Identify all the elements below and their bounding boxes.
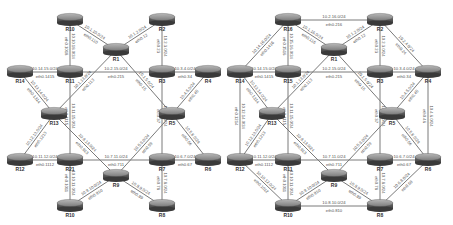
router-name: R13 [267, 120, 276, 126]
router-node[interactable]: R7 [149, 153, 175, 172]
link: 10.5.9.0/24eth0.59 [334, 114, 392, 176]
link-interface-label: eth0.1214 [234, 107, 239, 126]
router-node[interactable]: R8 [149, 199, 175, 218]
link-network-label: 10.2.15.0/24 [322, 66, 346, 71]
link-interface-label: eth0.23 [374, 39, 379, 54]
router-node[interactable]: R7 [367, 153, 393, 172]
router-name: R2 [377, 26, 384, 32]
link-interface-label: eth0.810 [326, 208, 343, 213]
router-name: R11 [284, 166, 293, 172]
link-interface-label: eth0.1112 [255, 162, 274, 167]
router-icon [103, 169, 129, 182]
router-name: R11 [66, 78, 75, 84]
link-network-label: 10.7.11.0/24 [323, 154, 347, 159]
link: 10.12.14.0/24eth0.1214 [234, 72, 247, 160]
link-network-label: 10.3.4.0/24 [394, 66, 416, 71]
link: 10.4.6.0/24eth0.46 [422, 72, 435, 160]
router-node[interactable]: R10 [57, 13, 83, 32]
link-interface-label: eth0.67 [178, 162, 193, 167]
router-icon [57, 65, 83, 78]
link-interface-label: eth0.1516 [282, 37, 287, 56]
router-icon [195, 153, 221, 166]
router-node[interactable]: R5 [159, 107, 185, 126]
router-name: R5 [169, 120, 176, 126]
link-interface-label: eth0.23 [156, 39, 161, 54]
router-name: R1 [113, 56, 120, 62]
link-interface-label: eth0.46 [422, 109, 427, 124]
router-node[interactable]: R2 [149, 13, 175, 32]
link: 10.8.10.0/24eth0.810 [288, 200, 380, 213]
router-name: R10 [65, 212, 74, 218]
link: 10.1.5.0/24eth0.15 [334, 50, 392, 114]
link-network-label: 10.2.16.0/24 [322, 14, 346, 19]
topology-panel-right: 10.2.16.0/24eth0.21610.1.16.0/24eth0.116… [227, 13, 441, 218]
router-name: R16 [283, 26, 292, 32]
link-network-label: 10.10.11.0/24 [289, 170, 294, 196]
router-node[interactable]: R9 [103, 169, 129, 188]
link-interface-label: eth0.67 [397, 162, 412, 167]
router-icon [259, 107, 285, 120]
link: 10.7.11.0/24eth0.711 [288, 154, 380, 167]
router-icon [275, 13, 301, 26]
link-network-label: 10.15.16.0/24 [289, 33, 294, 59]
router-node[interactable]: R6 [195, 153, 221, 172]
link-network-label: 10.14.15.0/24 [251, 66, 277, 71]
link-interface-label: eth0.1011 [64, 174, 69, 193]
router-node[interactable]: R4 [195, 65, 221, 84]
router-icon [275, 153, 301, 166]
router-icon [321, 43, 347, 56]
link-interface-label: eth0.78 [374, 176, 379, 191]
router-icon [321, 169, 347, 182]
router-node[interactable]: R3 [149, 65, 175, 84]
link-interface-label: eth0.34 [397, 74, 412, 79]
router-icon [7, 65, 33, 78]
router-name: R9 [113, 182, 120, 188]
link-interface-label: eth0.1415 [36, 74, 55, 79]
router-icon [227, 153, 253, 166]
router-name: R5 [389, 120, 396, 126]
link-network-label: 10.7.8.0/24 [163, 173, 168, 195]
link-network-label: 10.7.8.0/24 [381, 173, 386, 195]
router-node[interactable]: R12 [7, 153, 33, 172]
link-network-label: 10.7.11.0/24 [105, 154, 129, 159]
router-node[interactable]: R9 [321, 169, 347, 188]
router-name: R7 [159, 166, 166, 172]
router-icon [367, 199, 393, 212]
router-icon [149, 13, 175, 26]
router-icon [103, 43, 129, 56]
router-node[interactable]: R8 [367, 199, 393, 218]
router-icon [159, 107, 185, 120]
router-name: R14 [15, 78, 24, 84]
link-interface-label: eth0.215 [108, 74, 125, 79]
router-node[interactable]: R14 [7, 65, 33, 84]
link: 10.1.13.0/24eth0.113 [272, 50, 334, 114]
router-node[interactable]: R10 [275, 199, 301, 218]
router-node[interactable]: R10 [57, 199, 83, 218]
link-interface-label: eth0.34 [178, 74, 193, 79]
router-node[interactable]: R11 [275, 153, 301, 172]
router-icon [41, 107, 67, 120]
router-icon [275, 65, 301, 78]
link: 10.1.13.0/24eth0.113 [54, 50, 116, 114]
link: 10.10.12.0/24eth0.1012 [240, 160, 288, 206]
router-name: R6 [425, 166, 432, 172]
router-name: R12 [15, 166, 24, 172]
router-name: R1 [331, 56, 338, 62]
link-network-label: 10.11.15.0/24 [71, 103, 76, 129]
router-icon [415, 65, 441, 78]
router-icon [57, 153, 83, 166]
router-name: R8 [377, 212, 384, 218]
router-name: R10 [65, 26, 74, 32]
link-network-label: 10.6.7.0/24 [175, 154, 197, 159]
router-node[interactable]: R4 [415, 65, 441, 84]
router-name: R13 [49, 120, 58, 126]
router-node[interactable]: R21 [57, 153, 83, 172]
link-network-label: 10.6.7.0/24 [394, 154, 416, 159]
router-name: R2 [159, 26, 166, 32]
router-icon [415, 153, 441, 166]
link-network-label: 10.14.15.0/24 [32, 66, 58, 71]
link-network-label: 10.2.3.0/24 [163, 36, 168, 58]
link-interface-label: eth0.1018 [64, 37, 69, 56]
link-interface-label: eth0.711 [108, 162, 125, 167]
router-icon [149, 199, 175, 212]
